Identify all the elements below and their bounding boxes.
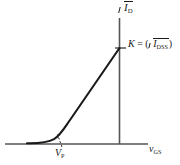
transfer-curve bbox=[27, 48, 120, 143]
intercept-subscript: DSS bbox=[157, 43, 168, 50]
y-axis-subscript: D bbox=[128, 7, 133, 14]
sqrt-symbol-idss-icon: IDSS bbox=[149, 38, 169, 49]
pinchoff-subscript: P bbox=[61, 152, 64, 159]
jfet-transfer-characteristic-figure: ID vGS K = ( IDSS ) VP bbox=[0, 0, 180, 165]
plot-canvas bbox=[0, 0, 180, 165]
pinchoff-voltage-label: VP bbox=[55, 148, 65, 158]
x-axis-subscript: GS bbox=[153, 148, 161, 155]
intercept-annotation: K = ( IDSS ) bbox=[128, 38, 172, 49]
radicand-id: ID bbox=[124, 1, 134, 13]
sqrt-symbol-id-icon: ID bbox=[119, 1, 133, 13]
intercept-equals: = ( bbox=[135, 38, 149, 49]
x-axis-label: vGS bbox=[149, 144, 161, 154]
radicand-idss: IDSS bbox=[153, 38, 169, 49]
intercept-close-paren: ) bbox=[169, 38, 172, 49]
intercept-prefix: K bbox=[128, 38, 135, 49]
y-axis-label: ID bbox=[119, 1, 133, 13]
